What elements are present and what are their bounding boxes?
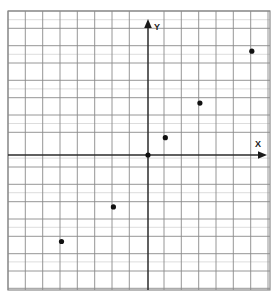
data-point xyxy=(197,101,202,106)
data-point xyxy=(59,239,64,244)
arrow-up-icon xyxy=(144,19,152,28)
x-axis-label: X xyxy=(255,139,261,149)
y-axis-label: Y xyxy=(154,22,160,32)
grid-lines-vertical xyxy=(8,11,268,290)
plot-frame xyxy=(8,11,270,290)
coordinate-grid-canvas: Y X xyxy=(0,0,278,300)
data-point xyxy=(111,204,116,209)
data-point-origin xyxy=(145,152,150,157)
data-point xyxy=(249,49,254,54)
coordinate-plane-figure: Y X xyxy=(0,0,278,300)
grid-lines-horizontal xyxy=(8,11,270,288)
grid-lines-minor xyxy=(8,20,270,262)
arrow-right-icon xyxy=(258,151,267,159)
data-points-group xyxy=(59,49,255,244)
data-point xyxy=(163,135,168,140)
